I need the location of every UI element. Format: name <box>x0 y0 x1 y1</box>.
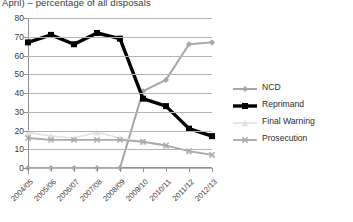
gridline <box>28 18 212 19</box>
series-line <box>28 33 212 136</box>
data-point-marker <box>242 85 248 91</box>
legend-swatch-icon <box>232 132 258 144</box>
chart-legend: NCDReprimandFinal WarningProsecution <box>232 78 350 146</box>
legend-label: Reprimand <box>262 99 304 109</box>
x-tick-mark <box>120 168 121 172</box>
x-tick-mark <box>74 168 75 172</box>
gridline <box>28 56 212 57</box>
legend-item-final-warning[interactable]: Final Warning <box>232 112 350 129</box>
line-chart: April) – percentage of all disposals 010… <box>0 0 353 222</box>
legend-label: Final Warning <box>262 116 315 126</box>
gridline <box>28 149 212 150</box>
y-tick-label: 60 <box>0 51 24 61</box>
gridline <box>28 74 212 75</box>
data-point-marker <box>209 39 215 45</box>
data-point-marker <box>242 103 248 109</box>
legend-label: Prosecution <box>262 133 307 143</box>
x-tick-mark <box>166 168 167 172</box>
y-tick-mark <box>24 56 28 57</box>
gridline <box>28 93 212 94</box>
data-point-marker <box>140 96 146 102</box>
y-tick-label: 70 <box>0 32 24 42</box>
y-tick-label: 50 <box>0 69 24 79</box>
plot-area <box>28 18 212 168</box>
data-point-marker <box>94 30 100 36</box>
y-tick-label: 40 <box>0 88 24 98</box>
x-tick-mark <box>51 168 52 172</box>
y-tick-mark <box>24 93 28 94</box>
chart-title: April) – percentage of all disposals <box>2 0 151 8</box>
gridline <box>28 112 212 113</box>
data-point-marker <box>209 133 215 139</box>
legend-item-ncd[interactable]: NCD <box>232 78 350 95</box>
legend-swatch-icon <box>232 115 258 127</box>
x-tick-mark <box>212 168 213 172</box>
y-tick-label: 20 <box>0 126 24 136</box>
y-tick-mark <box>24 149 28 150</box>
y-tick-mark <box>24 112 28 113</box>
y-tick-label: 30 <box>0 107 24 117</box>
y-tick-label: 0 <box>0 163 24 173</box>
y-tick-mark <box>24 37 28 38</box>
gridline <box>28 131 212 132</box>
x-tick-mark <box>143 168 144 172</box>
y-tick-mark <box>24 74 28 75</box>
y-tick-label: 10 <box>0 144 24 154</box>
data-point-marker <box>163 103 169 109</box>
y-tick-label: 80 <box>0 13 24 23</box>
legend-item-reprimand[interactable]: Reprimand <box>232 95 350 112</box>
data-point-marker <box>71 41 77 47</box>
y-tick-mark <box>24 131 28 132</box>
legend-swatch-icon <box>232 81 258 93</box>
data-point-marker <box>25 39 31 45</box>
x-tick-mark <box>189 168 190 172</box>
legend-label: NCD <box>262 82 281 92</box>
gridline <box>28 37 212 38</box>
legend-item-prosecution[interactable]: Prosecution <box>232 129 350 146</box>
x-tick-mark <box>97 168 98 172</box>
x-tick-mark <box>28 168 29 172</box>
legend-swatch-icon <box>232 98 258 110</box>
y-tick-mark <box>24 18 28 19</box>
